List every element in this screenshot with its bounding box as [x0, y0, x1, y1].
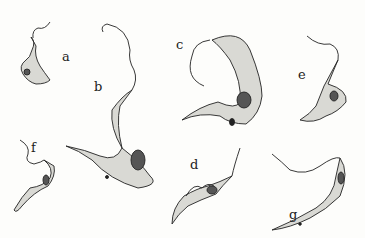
label-b: b [94, 80, 102, 93]
label-d: d [190, 158, 198, 171]
organism-g [272, 154, 345, 230]
organism-b [66, 24, 153, 188]
label-c: c [176, 38, 183, 51]
trypanosome-figure: a b c d e f g [0, 0, 365, 238]
organism-e [300, 36, 346, 121]
organism-drawings [0, 0, 365, 238]
organism-a [21, 22, 50, 84]
organism-c [182, 36, 262, 126]
label-g: g [289, 208, 297, 221]
label-f: f [31, 141, 36, 154]
label-e: e [298, 68, 306, 81]
label-a: a [62, 50, 70, 63]
organism-d [172, 148, 240, 224]
